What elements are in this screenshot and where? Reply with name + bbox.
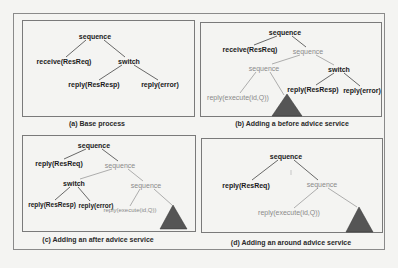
panel-c-inner-sequence-node: sequence bbox=[131, 182, 161, 189]
panel-b-reply-error-node: reply(error) bbox=[343, 87, 381, 94]
panel-a-sequence-node: sequence bbox=[79, 33, 111, 40]
panel-c-advice-reply-node: reply(execute(id,Q)) bbox=[103, 207, 156, 213]
panel-a-reply-resresp-node: reply(ResResp) bbox=[68, 81, 119, 88]
service-triangle-c bbox=[160, 205, 187, 229]
panel-b-advice-reply-node: reply(execute(id,Q)) bbox=[207, 94, 269, 101]
service-triangle-b bbox=[272, 94, 302, 116]
panel-b-sequence-node: sequence bbox=[269, 29, 301, 36]
panel-c-sequence-node: sequence bbox=[78, 142, 110, 149]
panel-b-receive-node: receive(ResReq) bbox=[223, 46, 278, 53]
panel-d-advice-reply-node: reply(execute(id,Q)) bbox=[258, 209, 320, 216]
panel-c-switch-node: switch bbox=[63, 180, 85, 187]
panel-b-inner-sequence-node: sequence bbox=[249, 65, 279, 72]
panel-a-caption: (a) Base process bbox=[69, 120, 125, 127]
figure: sequence receive(ResReq) switch reply(Re… bbox=[0, 0, 398, 268]
panel-d-advice-sequence-node: sequence bbox=[307, 181, 337, 188]
service-triangle-d bbox=[346, 207, 373, 232]
panel-c-reply-resresp-node: reply(ResResp) bbox=[28, 201, 76, 208]
panel-b-reply-resresp-node: reply(ResResp) bbox=[287, 86, 338, 93]
panel-c-advice-sequence-node: sequence bbox=[105, 162, 135, 169]
panel-b-caption: (b) Adding a before advice service bbox=[235, 120, 349, 127]
panel-b-switch-node: switch bbox=[328, 66, 350, 73]
panel-d-reply-resreq-node: reply(ResReq) bbox=[222, 182, 269, 189]
panel-d-caption: (d) Adding an around advice service bbox=[231, 239, 351, 246]
panel-a-reply-error-node: reply(error) bbox=[141, 81, 179, 88]
panel-d-sequence-node: sequence bbox=[270, 153, 302, 160]
panel-c-caption: (c) Adding an after advice service bbox=[42, 236, 153, 243]
panel-b-advice-sequence-node: sequence bbox=[293, 48, 323, 55]
panel-c-reply-resreq-node: reply(ResReq) bbox=[35, 160, 82, 167]
panel-a-receive-node: receive(ResReq) bbox=[37, 58, 92, 65]
tree-edges bbox=[0, 0, 398, 268]
panel-a-switch-node: switch bbox=[118, 58, 140, 65]
